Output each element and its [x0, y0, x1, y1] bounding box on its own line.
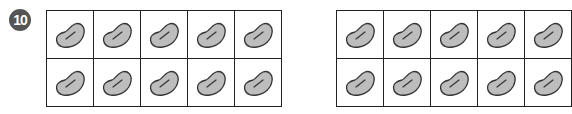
ten-frame-cell [384, 11, 431, 59]
ten-frame-partial [336, 10, 572, 107]
bean-icon [390, 20, 424, 50]
ten-frame-cell [478, 11, 525, 59]
bean-icon [484, 20, 518, 50]
bean-icon [194, 68, 228, 98]
ten-frame-cell [525, 11, 572, 59]
bean-icon [531, 20, 565, 50]
ten-frame-cell [235, 11, 282, 59]
ten-frame-cell [188, 59, 235, 107]
problem-number-badge: 10 [9, 9, 31, 31]
bean-icon [531, 68, 565, 98]
ten-frame-cell [525, 59, 572, 107]
ten-frame [46, 10, 282, 107]
ten-frame-cell [141, 59, 188, 107]
bean-icon [241, 20, 275, 50]
ten-frame-cell [337, 59, 384, 107]
bean-icon [147, 20, 181, 50]
bean-icon [100, 68, 134, 98]
ten-frame-cell [141, 11, 188, 59]
bean-icon [437, 20, 471, 50]
ten-frame-cell [94, 11, 141, 59]
ten-frame-cell [94, 59, 141, 107]
ten-frame-cell [384, 59, 431, 107]
bean-icon [343, 68, 377, 98]
bean-icon [53, 20, 87, 50]
bean-icon [343, 20, 377, 50]
ten-frame-cell [235, 59, 282, 107]
bean-icon [53, 68, 87, 98]
ten-frame-cell [478, 59, 525, 107]
bean-icon [100, 20, 134, 50]
ten-frame-cell [337, 11, 384, 59]
bean-icon [437, 68, 471, 98]
ten-frame-cell [47, 11, 94, 59]
ten-frame-cell [188, 11, 235, 59]
bean-icon [194, 20, 228, 50]
ten-frame-cell [431, 11, 478, 59]
bean-icon [147, 68, 181, 98]
bean-icon [484, 68, 518, 98]
bean-icon [241, 68, 275, 98]
bean-icon [390, 68, 424, 98]
ten-frame-cell [431, 59, 478, 107]
ten-frame-cell [47, 59, 94, 107]
